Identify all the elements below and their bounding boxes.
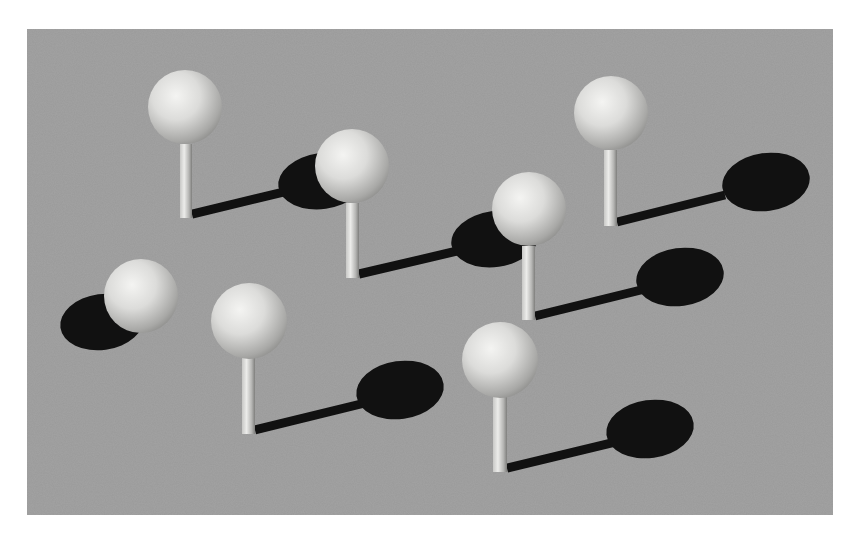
sphere	[492, 172, 566, 246]
sphere	[462, 322, 538, 398]
post	[346, 203, 359, 278]
post	[242, 358, 255, 434]
sphere	[211, 283, 287, 359]
sphere	[104, 259, 178, 333]
pin-5	[104, 259, 178, 333]
sphere	[148, 70, 222, 144]
sphere	[315, 129, 389, 203]
post	[604, 150, 617, 226]
rendered-scene	[0, 0, 859, 542]
post	[493, 397, 507, 472]
sphere	[574, 76, 648, 150]
post	[180, 144, 192, 218]
post	[522, 246, 535, 320]
